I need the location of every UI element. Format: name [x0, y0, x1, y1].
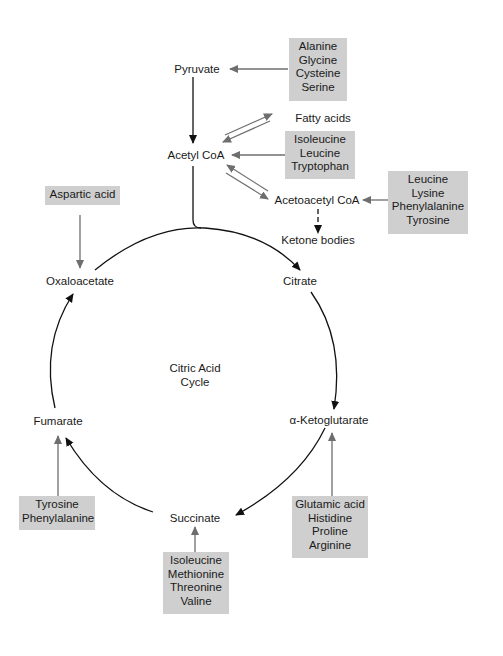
box-acetyl-coa-amino-acids: IsoleucineLeucineTryptophan [285, 131, 355, 179]
acetoacetyl-coa-label: Acetoacetyl CoA [274, 194, 359, 206]
succinate-label: Succinate [170, 512, 221, 524]
ketone-bodies-label: Ketone bodies [281, 234, 355, 246]
box-fumarate-amino-acids: TyrosinePhenylalanine [19, 496, 95, 530]
box-oxaloacetate-amino-acids: Aspartic acid [45, 186, 120, 205]
box-succinate-amino-acids: IsoleucineMethionineThreonineValine [163, 552, 229, 614]
fatty-acids-label: Fatty acids [295, 112, 351, 124]
box-pyruvate-amino-acids: AlanineGlycineCysteineSerine [289, 38, 347, 101]
box-alpha-ketoglutarate-amino-acids: Glutamic acidHistidineProlineArginine [292, 496, 368, 558]
alpha-ketoglutarate-label: α-Ketoglutarate [290, 414, 369, 426]
pathway-arrows [0, 0, 503, 656]
citrate-label: Citrate [283, 275, 317, 287]
cycle-title: Citric Acid Cycle [169, 361, 220, 389]
pyruvate-label: Pyruvate [174, 63, 219, 75]
oxaloacetate-label: Oxaloacetate [46, 275, 114, 287]
box-acetoacetyl-coa-amino-acids: LeucineLysinePhenylalanineTyrosine [388, 171, 468, 234]
fumarate-label: Fumarate [33, 415, 82, 427]
acetyl-coa-label: Acetyl CoA [168, 149, 225, 161]
